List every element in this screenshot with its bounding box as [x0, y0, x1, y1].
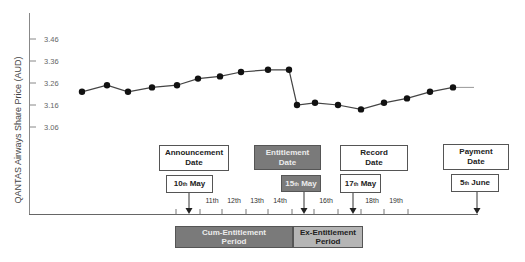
price-marker — [217, 73, 223, 79]
entitlement-date-value: 15th May — [281, 175, 321, 192]
y-tick-label: 3.06 — [44, 123, 59, 132]
price-marker — [174, 82, 180, 88]
price-marker — [149, 84, 155, 90]
arrow-down-icon — [350, 208, 357, 214]
price-marker — [79, 89, 85, 95]
y-ticks: 3.463.363.263.163.06 — [29, 35, 59, 132]
day-label: 18th — [365, 197, 379, 204]
price-marker — [125, 89, 131, 95]
y-tick-label: 3.36 — [44, 57, 59, 66]
timeline-ticks — [176, 209, 408, 214]
arrow-down-icon — [474, 208, 481, 214]
payment-date-box: Payment Date — [443, 144, 509, 170]
cum-entitlement-period: Cum-Entitlement Period — [175, 226, 293, 248]
price-marker — [294, 102, 300, 108]
price-marker — [104, 82, 110, 88]
payment-date-label: Payment — [459, 147, 492, 157]
day-label: 16th — [319, 197, 333, 204]
arrow-down-icon — [186, 208, 193, 214]
record-date-label-2: Date — [365, 158, 382, 168]
price-marker — [286, 67, 292, 73]
price-marker — [335, 102, 341, 108]
record-date-label: Record — [360, 148, 388, 158]
price-series — [79, 67, 474, 113]
record-date-box: Record Date — [340, 145, 408, 171]
ex-entitlement-period: Ex-Entitlement Period — [293, 226, 363, 248]
arrow-down-icon — [301, 208, 308, 214]
entitlement-date-label-2: Date — [279, 158, 296, 168]
y-tick-label: 3.46 — [44, 35, 59, 44]
price-line — [82, 70, 453, 110]
payment-date-value: 5th June — [451, 174, 499, 192]
day-label: 13th — [250, 197, 264, 204]
y-tick-label: 3.16 — [44, 101, 59, 110]
announcement-date-box: Announcement Date — [159, 145, 229, 171]
price-marker — [238, 69, 244, 75]
entitlement-date-label: Entitlement — [266, 148, 310, 158]
day-label: 12th — [227, 197, 241, 204]
y-axis-label: QANTAS Airways Share Price (AUD) — [13, 57, 23, 204]
price-marker — [358, 106, 364, 112]
price-marker — [195, 75, 201, 81]
price-marker — [265, 67, 271, 73]
day-label: 11th — [205, 197, 218, 204]
entitlement-date-box: Entitlement Date — [254, 145, 321, 170]
price-marker — [450, 84, 456, 90]
price-marker — [427, 89, 433, 95]
price-marker — [404, 95, 410, 101]
announcement-date-label-2: Date — [185, 158, 202, 168]
price-marker — [312, 100, 318, 106]
announcement-date-label: Announcement — [165, 148, 223, 158]
payment-date-label-2: Date — [467, 157, 484, 167]
record-date-value: 17th May — [340, 174, 381, 193]
day-label: 14th — [273, 197, 287, 204]
price-marker — [381, 100, 387, 106]
chart-canvas: 3.463.363.263.163.06 — [0, 0, 525, 262]
announcement-date-value: 10th May — [166, 175, 213, 193]
y-tick-label: 3.26 — [44, 79, 59, 88]
day-label: 19th — [389, 197, 403, 204]
